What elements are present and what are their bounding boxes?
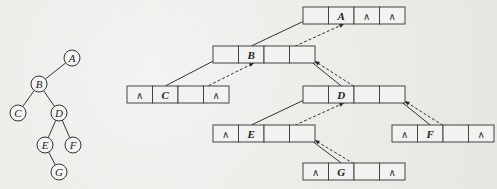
null-pointer-icon: ∧ [363,11,370,22]
tree-node-label: B [36,78,43,90]
tree-edge-BC [23,90,35,106]
tree-node-label: A [68,52,76,64]
parent-cell [354,163,380,180]
tree-edge-DF [62,120,70,137]
linked-node-F: ∧F∧ [392,125,494,142]
null-pointer-icon: ∧ [478,129,485,140]
parent-cell [443,125,469,142]
tree-node-label: C [14,107,22,119]
node-data-label: D [336,89,345,101]
node-data-label: C [162,89,170,101]
rchild-cell [380,86,406,103]
tree-node-C: C [10,105,26,121]
lchild-cell [303,7,329,24]
tree-node-label: G [55,166,63,178]
node-data-label: B [247,49,255,61]
binary-tree-diagram: ABCDEFG A∧∧B∧C∧D∧E∧F∧∧G∧ [0,0,497,189]
tree-edge-DE [48,120,56,137]
null-pointer-icon: ∧ [136,90,143,101]
node-data-label: F [426,128,435,140]
linked-nodes: A∧∧B∧C∧D∧E∧F∧∧G∧ [127,7,494,180]
linked-node-D: D [303,86,405,103]
tree-node-label: F [69,139,77,151]
linked-node-B: B [213,46,315,63]
tree-node-E: E [37,137,53,153]
lchild-cell [213,46,239,63]
null-pointer-icon: ∧ [389,167,396,178]
tree-node-label: D [54,107,63,119]
tree-node-D: D [51,105,67,121]
null-pointer-icon: ∧ [213,90,220,101]
null-pointer-icon: ∧ [312,167,319,178]
diagram-canvas: ABCDEFG A∧∧B∧C∧D∧E∧F∧∧G∧ [0,0,497,189]
tree-node-F: F [65,137,81,153]
lchild-cell [303,86,329,103]
parent-cell [178,86,204,103]
parent-cell [354,86,380,103]
tree-edge-EG [49,152,56,165]
linked-node-G: ∧G∧ [303,163,405,180]
tree-node-label: E [41,139,49,151]
rchild-cell [290,46,316,63]
linked-node-A: A∧∧ [303,7,405,24]
node-data-label: G [337,166,345,178]
tree-nodes: ABCDEFG [10,50,81,180]
rchild-cell [290,125,316,142]
tree-node-B: B [31,76,47,92]
linked-node-E: ∧E [213,125,315,142]
null-pointer-icon: ∧ [389,11,396,22]
node-data-label: A [337,10,345,22]
tree-node-A: A [64,50,80,66]
tree-node-G: G [51,164,67,180]
node-data-label: E [247,128,255,140]
tree-edge-BD [44,91,55,107]
parent-cell [264,125,290,142]
linked-node-C: ∧C∧ [127,86,229,103]
null-pointer-icon: ∧ [222,129,229,140]
null-pointer-icon: ∧ [401,129,408,140]
tree-edge-AB [45,63,65,79]
parent-cell [264,46,290,63]
